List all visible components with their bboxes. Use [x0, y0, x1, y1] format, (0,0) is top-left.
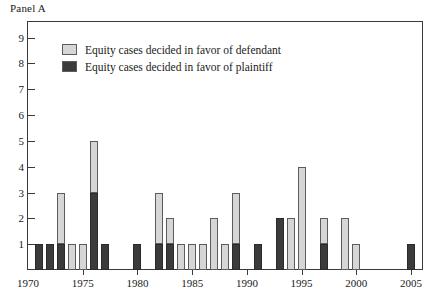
bar-segment-plaintiff: [46, 244, 54, 270]
y-axis-tick-label: 1: [6, 239, 24, 249]
bar-segment-plaintiff: [276, 218, 284, 270]
y-axis-tick-label-wrap: 9: [4, 33, 24, 43]
x-axis-tick-mark: [192, 270, 193, 275]
bar-segment-plaintiff: [133, 244, 141, 270]
figure-panel-a: Panel A 987654321 Equity cases decided i…: [0, 0, 429, 305]
x-axis-tick-mark: [302, 270, 303, 275]
bar-stack: [101, 244, 109, 270]
bar-stack: [57, 193, 65, 271]
bar-stack: [188, 244, 196, 270]
bar-segment-plaintiff: [232, 244, 240, 270]
bar-stack: [276, 218, 284, 270]
y-axis-tick-label: 9: [6, 33, 24, 43]
legend-label-plaintiff: Equity cases decided in favor of plainti…: [85, 61, 273, 73]
bar-stack: [133, 244, 141, 270]
legend-label-defendant: Equity cases decided in favor of defenda…: [85, 44, 281, 56]
bar-stack: [298, 167, 306, 270]
bar-stack: [68, 244, 76, 270]
bar-stack: [341, 218, 349, 270]
bar-stack: [79, 244, 87, 270]
bar-stack: [166, 218, 174, 270]
bar-stack: [407, 244, 415, 270]
bar-stack: [254, 244, 262, 270]
bar-segment-defendant: [287, 218, 295, 270]
x-axis-tick-label: 1980: [117, 277, 157, 289]
x-axis-tick-mark: [247, 270, 248, 275]
bar-stack: [90, 141, 98, 270]
bar-stack: [199, 244, 207, 270]
bar-segment-defendant: [341, 218, 349, 270]
bar-segment-plaintiff: [166, 244, 174, 270]
y-axis-tick-label: 3: [6, 188, 24, 198]
page-title: Panel A: [10, 2, 46, 14]
y-axis-tick-label-wrap: 2: [4, 213, 24, 223]
legend: Equity cases decided in favor of defenda…: [62, 41, 281, 75]
bar-segment-defendant: [57, 193, 65, 245]
bar-stack: [232, 193, 240, 271]
y-axis-tick-label-wrap: 6: [4, 110, 24, 120]
y-axis-tick-label-wrap: 7: [4, 84, 24, 94]
bar-segment-defendant: [352, 244, 360, 270]
x-axis-tick-label: 2000: [336, 277, 376, 289]
bar-stack: [221, 244, 229, 270]
bar-segment-defendant: [79, 244, 87, 270]
y-axis-tick-label-wrap: 8: [4, 58, 24, 68]
x-axis-tick-mark: [411, 270, 412, 275]
legend-swatch-defendant-icon: [62, 44, 77, 55]
x-axis-tick-label: 1975: [63, 277, 103, 289]
y-axis-tick-label: 4: [6, 162, 24, 172]
bar-segment-plaintiff: [57, 244, 65, 270]
y-axis-tick-label-wrap: 3: [4, 188, 24, 198]
bar-segment-defendant: [155, 193, 163, 245]
y-axis-tick-label: 2: [6, 213, 24, 223]
bar-segment-defendant: [90, 141, 98, 193]
bar-segment-defendant: [210, 218, 218, 270]
bar-segment-defendant: [166, 218, 174, 244]
x-axis-tick-mark: [137, 270, 138, 275]
bar-segment-defendant: [68, 244, 76, 270]
x-axis-tick-label: 1990: [227, 277, 267, 289]
bar-segment-defendant: [199, 244, 207, 270]
bar-segment-plaintiff: [90, 193, 98, 271]
bar-segment-defendant: [188, 244, 196, 270]
bar-segment-defendant: [232, 193, 240, 245]
bar-stack: [46, 244, 54, 270]
bar-segment-plaintiff: [101, 244, 109, 270]
y-axis-tick-label: 6: [6, 110, 24, 120]
bar-stack: [352, 244, 360, 270]
x-axis-tick-mark: [356, 270, 357, 275]
bar-stack: [35, 244, 43, 270]
bar-segment-plaintiff: [254, 244, 262, 270]
bar-stack: [210, 218, 218, 270]
y-axis-tick-label: 8: [6, 58, 24, 68]
y-axis-tick-label: 7: [6, 84, 24, 94]
bar-stack: [320, 218, 328, 270]
bar-stack: [177, 244, 185, 270]
bar-stack: [287, 218, 295, 270]
y-axis-tick-label-wrap: 1: [4, 239, 24, 249]
bar-segment-plaintiff: [35, 244, 43, 270]
legend-swatch-plaintiff-icon: [62, 61, 77, 72]
bar-segment-plaintiff: [407, 244, 415, 270]
bar-segment-defendant: [298, 167, 306, 270]
bar-segment-defendant: [221, 244, 229, 270]
y-axis-tick-label-wrap: 5: [4, 136, 24, 146]
bar-stack: [155, 193, 163, 271]
bar-segment-plaintiff: [155, 244, 163, 270]
legend-item-plaintiff: Equity cases decided in favor of plainti…: [62, 58, 281, 75]
x-axis-tick-label: 1985: [172, 277, 212, 289]
bar-segment-defendant: [320, 218, 328, 244]
bar-segment-plaintiff: [320, 244, 328, 270]
x-axis-tick-label: 1970: [8, 277, 48, 289]
legend-item-defendant: Equity cases decided in favor of defenda…: [62, 41, 281, 58]
x-axis-tick-label: 1995: [282, 277, 322, 289]
bar-segment-defendant: [177, 244, 185, 270]
x-axis-tick-label: 2005: [391, 277, 429, 289]
x-axis-tick-mark: [83, 270, 84, 275]
y-axis-tick-label-wrap: 4: [4, 162, 24, 172]
y-axis-tick-label: 5: [6, 136, 24, 146]
